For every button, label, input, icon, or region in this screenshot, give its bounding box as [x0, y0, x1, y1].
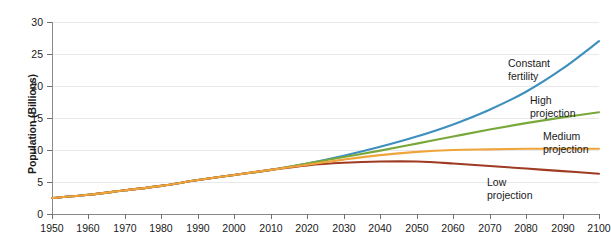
x-tick-label-2020: 2020	[295, 222, 319, 234]
x-tick-label-2070: 2070	[478, 222, 502, 234]
annotation-medium-projection-line2: projection	[543, 143, 589, 155]
series-annotations: Constant fertility High projection Mediu…	[487, 57, 589, 201]
x-tick-label-2000: 2000	[222, 222, 246, 234]
annotation-low-projection-line2: projection	[487, 189, 533, 201]
annotation-constant-fertility-line2: fertility	[508, 70, 539, 82]
y-tick-marks	[47, 22, 52, 214]
annotation-low-projection-line1: Low	[487, 176, 507, 188]
x-tick-label-2030: 2030	[332, 222, 356, 234]
y-tick-label-0: 0	[37, 208, 43, 220]
y-gridlines	[52, 22, 599, 182]
population-projection-chart: Population (Billions) 30 25 20 15	[0, 0, 611, 248]
x-tick-label-2040: 2040	[368, 222, 392, 234]
x-tick-label-1990: 1990	[186, 222, 210, 234]
x-tick-label-1950: 1950	[40, 222, 64, 234]
series-line-high-projection	[52, 112, 599, 198]
y-tick-label-25: 25	[31, 48, 43, 60]
x-tick-marks	[52, 214, 599, 219]
y-tick-label-30: 30	[31, 16, 43, 28]
chart-plot-area: 30 25 20 15 10 5 0 1950 1960 1	[0, 0, 611, 248]
x-tick-label-2060: 2060	[441, 222, 465, 234]
x-tick-label-2100: 2100	[587, 222, 611, 234]
x-tick-label-2080: 2080	[514, 222, 538, 234]
x-tick-label-2010: 2010	[259, 222, 283, 234]
annotation-medium-projection-line1: Medium	[543, 130, 581, 142]
x-tick-label-1980: 1980	[149, 222, 173, 234]
x-tick-label-2050: 2050	[405, 222, 429, 234]
x-tick-label-1970: 1970	[113, 222, 137, 234]
annotation-high-projection-line2: projection	[530, 107, 576, 119]
y-tick-label-15: 15	[31, 112, 43, 124]
y-tick-label-10: 10	[31, 144, 43, 156]
annotation-constant-fertility-line1: Constant	[508, 57, 550, 69]
y-tick-label-20: 20	[31, 80, 43, 92]
x-tick-label-2090: 2090	[551, 222, 575, 234]
x-tick-label-1960: 1960	[76, 222, 100, 234]
y-tick-label-5: 5	[37, 176, 43, 188]
annotation-high-projection-line1: High	[530, 94, 552, 106]
